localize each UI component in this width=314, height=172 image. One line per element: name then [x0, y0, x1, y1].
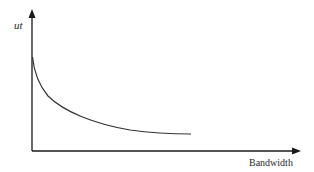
- chart-canvas: ut Bandwidth: [0, 0, 314, 172]
- y-axis-arrow-icon: [29, 9, 36, 18]
- ut-curve: [33, 57, 192, 134]
- x-axis-arrow-icon: [292, 148, 301, 155]
- chart-plot-area: [0, 0, 314, 172]
- x-axis-label: Bandwidth: [249, 158, 293, 168]
- y-axis-label: ut: [14, 20, 23, 31]
